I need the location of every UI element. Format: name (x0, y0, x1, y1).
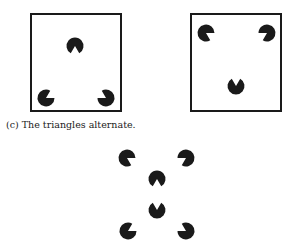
figure-caption: (c) The triangles alternate. (6, 119, 136, 130)
right-panel-inducers (194, 21, 278, 94)
pacman-bottom-center (228, 79, 245, 95)
pacman-b-bottom-left (116, 220, 138, 243)
pacman-b-mid-lower (149, 203, 166, 219)
pacman-top-center (67, 37, 84, 53)
left-panel-inducers (34, 37, 117, 109)
pacman-b-top-right (175, 146, 197, 169)
pacman-bottom-left (34, 87, 56, 110)
pacman-top-right (256, 21, 278, 44)
pacman-b-bottom-right (175, 220, 197, 243)
bottom-panel-inducers (115, 146, 197, 242)
pacman-top-left (194, 21, 216, 44)
pacman-b-mid-upper (149, 170, 166, 186)
pacman-bottom-right (95, 87, 117, 110)
pacman-b-top-left (115, 146, 137, 169)
